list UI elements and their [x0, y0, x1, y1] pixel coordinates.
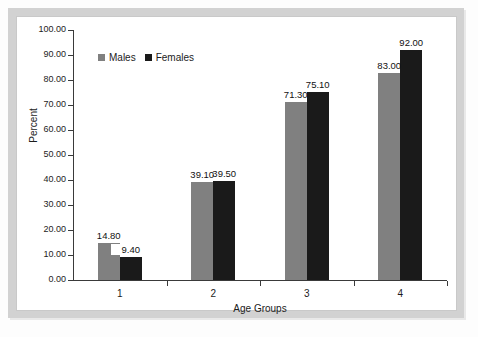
legend-label-males: Males [109, 52, 136, 63]
x-axis-category-label: 3 [287, 288, 327, 299]
bar-males-group-3[interactable] [285, 102, 307, 280]
legend-label-females: Females [156, 52, 194, 63]
chart-page: Percent 100.0090.0080.0070.0060.0050.004… [0, 0, 478, 337]
legend-swatch-males [98, 54, 105, 61]
x-axis-label: Age Groups [73, 303, 447, 314]
bar-value-label: 39.50 [204, 168, 244, 179]
bar-value-label: 92.00 [391, 37, 431, 48]
plot-area: Percent 100.0090.0080.0070.0060.0050.004… [0, 0, 478, 337]
bar-males-group-2[interactable] [191, 182, 213, 280]
legend-swatch-females [145, 54, 152, 61]
bar-females-group-1[interactable] [120, 257, 142, 281]
x-axis-category-label: 1 [100, 288, 140, 299]
x-axis-tick [354, 281, 355, 286]
bar-females-group-4[interactable] [400, 50, 422, 280]
x-axis-category-label: 4 [380, 288, 420, 299]
chart-legend: Males Females [98, 52, 194, 63]
bar-value-label: 9.40 [111, 244, 151, 255]
bar-value-label: 14.80 [89, 230, 129, 241]
bar-males-group-4[interactable] [378, 73, 400, 281]
x-axis-tick [167, 281, 168, 286]
x-axis-tick [260, 281, 261, 286]
legend-item-females: Females [145, 52, 194, 63]
x-axis-category-label: 2 [193, 288, 233, 299]
bar-females-group-2[interactable] [213, 181, 235, 280]
bar-value-label: 71.30 [276, 89, 316, 100]
legend-item-males: Males [98, 52, 136, 63]
bar-value-label: 83.00 [369, 60, 409, 71]
x-axis-tick [447, 281, 448, 286]
bar-females-group-3[interactable] [307, 92, 329, 280]
bar-value-label: 75.10 [298, 79, 338, 90]
